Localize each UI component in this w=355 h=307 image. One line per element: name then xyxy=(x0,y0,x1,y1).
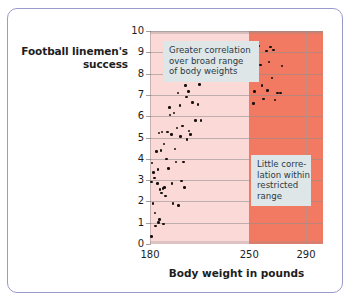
data-point xyxy=(162,223,165,226)
x-tick-label-250: 250 xyxy=(229,249,269,260)
plot-bottom-edge xyxy=(150,241,323,244)
data-point xyxy=(269,46,272,49)
figure-frame: Football linemen's success 012345678910 … xyxy=(7,8,343,293)
gridline-y-6 xyxy=(150,116,323,117)
data-point xyxy=(155,150,158,153)
y-tick-mark-3 xyxy=(146,180,151,181)
y-tick-label-0: 0 xyxy=(124,239,144,249)
x-tick-label-290: 290 xyxy=(286,249,326,260)
data-point xyxy=(182,161,185,164)
data-point xyxy=(160,149,163,152)
y-tick-label-4: 4 xyxy=(124,154,144,164)
y-tick-mark-0 xyxy=(146,244,151,245)
data-point xyxy=(152,171,155,174)
data-point xyxy=(152,202,155,205)
data-point xyxy=(163,186,166,189)
data-point xyxy=(150,235,153,238)
data-point xyxy=(279,92,282,95)
y-tick-label-3: 3 xyxy=(124,175,144,185)
data-point xyxy=(179,135,182,138)
y-tick-label-6: 6 xyxy=(124,111,144,121)
restricted-range-note-line-2: lation within xyxy=(257,170,305,181)
data-point xyxy=(253,90,256,93)
data-point xyxy=(153,177,156,180)
data-point xyxy=(156,182,159,185)
y-tick-mark-6 xyxy=(146,116,151,117)
gridline-y-5 xyxy=(150,138,323,139)
data-point xyxy=(183,186,186,189)
y-tick-label-5: 5 xyxy=(124,133,144,143)
y-tick-mark-1 xyxy=(146,223,151,224)
data-point xyxy=(167,167,170,170)
restricted-range-note-line-4: range xyxy=(257,191,305,202)
data-point xyxy=(252,102,255,105)
data-point xyxy=(198,83,201,86)
data-point xyxy=(157,221,160,224)
data-point xyxy=(177,92,180,95)
y-tick-label-9: 9 xyxy=(124,47,144,57)
data-point xyxy=(191,101,194,104)
data-point xyxy=(160,192,163,195)
restricted-range-note: Little corre- lation within restricted r… xyxy=(251,155,311,206)
data-point xyxy=(168,106,171,109)
y-tick-mark-10 xyxy=(146,31,151,32)
x-tick-label-180: 180 xyxy=(130,249,170,260)
y-tick-label-8: 8 xyxy=(124,69,144,79)
broad-range-note-line-2: over broad range xyxy=(169,56,253,67)
y-axis-title-line-2: success xyxy=(20,58,128,71)
gridline-y-1 xyxy=(150,223,323,224)
gridline-y-7 xyxy=(150,95,323,96)
data-point xyxy=(194,119,197,122)
data-point xyxy=(189,133,192,136)
data-point xyxy=(154,225,157,228)
data-point xyxy=(261,84,264,87)
restricted-range-note-line-1: Little corre- xyxy=(257,159,305,170)
plot-top-edge xyxy=(150,31,323,34)
broad-range-note-line-1: Greater correlation xyxy=(169,45,253,56)
data-point xyxy=(172,202,175,205)
data-point xyxy=(157,168,160,171)
data-point xyxy=(170,133,173,136)
y-axis-title-line-1: Football linemen's xyxy=(20,45,128,58)
data-point xyxy=(158,218,161,221)
y-tick-mark-4 xyxy=(146,159,151,160)
data-point xyxy=(179,104,182,107)
y-tick-label-1: 1 xyxy=(124,218,144,228)
data-point xyxy=(184,84,187,87)
y-tick-label-10: 10 xyxy=(124,26,144,36)
data-point xyxy=(181,125,184,128)
gridline-x-290 xyxy=(306,31,307,244)
data-point xyxy=(185,96,188,99)
data-point xyxy=(266,89,269,92)
data-point xyxy=(177,204,180,207)
y-tick-mark-5 xyxy=(146,138,151,139)
broad-range-note: Greater correlation over broad range of … xyxy=(163,41,259,82)
y-tick-label-7: 7 xyxy=(124,90,144,100)
y-tick-label-2: 2 xyxy=(124,196,144,206)
data-point xyxy=(187,90,190,93)
data-point xyxy=(200,119,203,122)
y-tick-mark-2 xyxy=(146,201,151,202)
y-tick-mark-8 xyxy=(146,74,151,75)
broad-range-note-line-3: of body weights xyxy=(169,66,253,77)
y-tick-mark-7 xyxy=(146,95,151,96)
y-axis-title: Football linemen's success xyxy=(20,45,128,71)
data-point xyxy=(165,158,168,161)
x-axis-title: Body weight in pounds xyxy=(150,267,323,279)
y-tick-mark-9 xyxy=(146,52,151,53)
restricted-range-note-line-3: restricted xyxy=(257,180,305,191)
